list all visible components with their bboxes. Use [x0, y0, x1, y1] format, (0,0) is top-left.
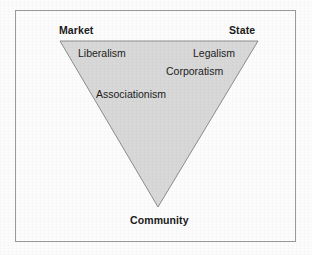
diagram-canvas: Market State Community Liberalism Legali…	[0, 0, 312, 255]
interior-label-associationism: Associationism	[96, 88, 166, 100]
interior-label-legalism: Legalism	[193, 47, 235, 59]
figure-border	[15, 10, 296, 242]
vertex-label-market: Market	[59, 24, 93, 36]
vertex-label-community: Community	[130, 214, 189, 226]
interior-label-liberalism: Liberalism	[78, 47, 126, 59]
vertex-label-state: State	[229, 24, 255, 36]
interior-label-corporatism: Corporatism	[166, 65, 223, 77]
